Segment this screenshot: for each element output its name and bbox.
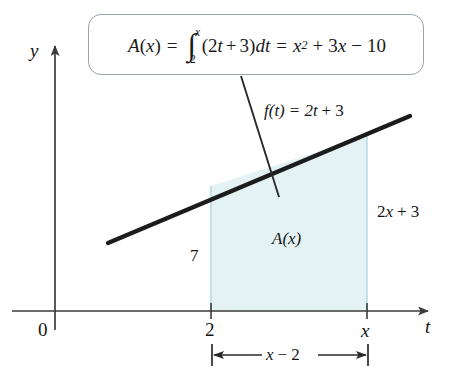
function-label-equals: = — [285, 101, 305, 120]
x-axis-label: t — [425, 317, 430, 336]
equation-lhs-function: A — [128, 35, 140, 57]
width-dimension-label: x−2 — [266, 346, 300, 363]
integrand-plus: + — [223, 35, 240, 57]
result-constant: 10 — [367, 35, 386, 57]
result-x-term: x — [338, 35, 346, 57]
integral-group: ∫ x 2 — [187, 31, 199, 61]
figure-container: A(x) = ∫ x 2 (2t+3)dt = x2+3x−10 y t 0 2… — [0, 0, 449, 379]
result-variable: x — [293, 35, 301, 57]
equation-callout-box: A(x) = ∫ x 2 (2t+3)dt = x2+3x−10 — [88, 14, 424, 75]
x-tick-label-x: x — [361, 321, 369, 340]
shaded-area-region — [211, 136, 367, 311]
integrand-constant: 3) — [240, 35, 256, 57]
left-height-label: 7 — [190, 247, 199, 264]
function-label-plus: + — [318, 101, 336, 120]
x-tick-label-2: 2 — [205, 320, 215, 339]
result-plus: + — [308, 35, 329, 57]
y-axis-label: y — [30, 41, 38, 60]
differential-d: d — [255, 35, 265, 57]
integral-limits: x 2 — [193, 31, 199, 61]
integral-upper-limit: x — [195, 26, 201, 38]
function-label-arg: (t) — [269, 101, 285, 120]
function-label-intercept: 3 — [335, 101, 344, 120]
width-dimension-constant: 2 — [291, 345, 300, 364]
origin-label: 0 — [38, 320, 48, 339]
function-label: f(t)=2t+3 — [264, 102, 344, 119]
width-dimension-minus: − — [274, 345, 292, 364]
right-height-coefficient: 2 — [377, 202, 386, 221]
width-dimension-variable: x — [266, 345, 274, 364]
integrand-open: (2 — [202, 35, 218, 57]
function-label-slope: 2t — [304, 101, 317, 120]
equation-lhs-variable: x — [146, 35, 154, 57]
result-coefficient: 3 — [328, 35, 338, 57]
accumulation-equation: A(x) = ∫ x 2 (2t+3)dt = x2+3x−10 — [89, 15, 425, 76]
right-height-constant: 3 — [411, 202, 420, 221]
result-minus: − — [346, 35, 367, 57]
equation-equals-second: = — [270, 35, 293, 57]
area-label: A(x) — [272, 230, 301, 247]
right-height-label: 2x+3 — [377, 203, 419, 220]
right-height-variable: x — [386, 202, 394, 221]
right-height-plus: + — [393, 202, 411, 221]
equation-equals-first: = — [161, 35, 184, 57]
integral-lower-limit: 2 — [190, 53, 196, 65]
